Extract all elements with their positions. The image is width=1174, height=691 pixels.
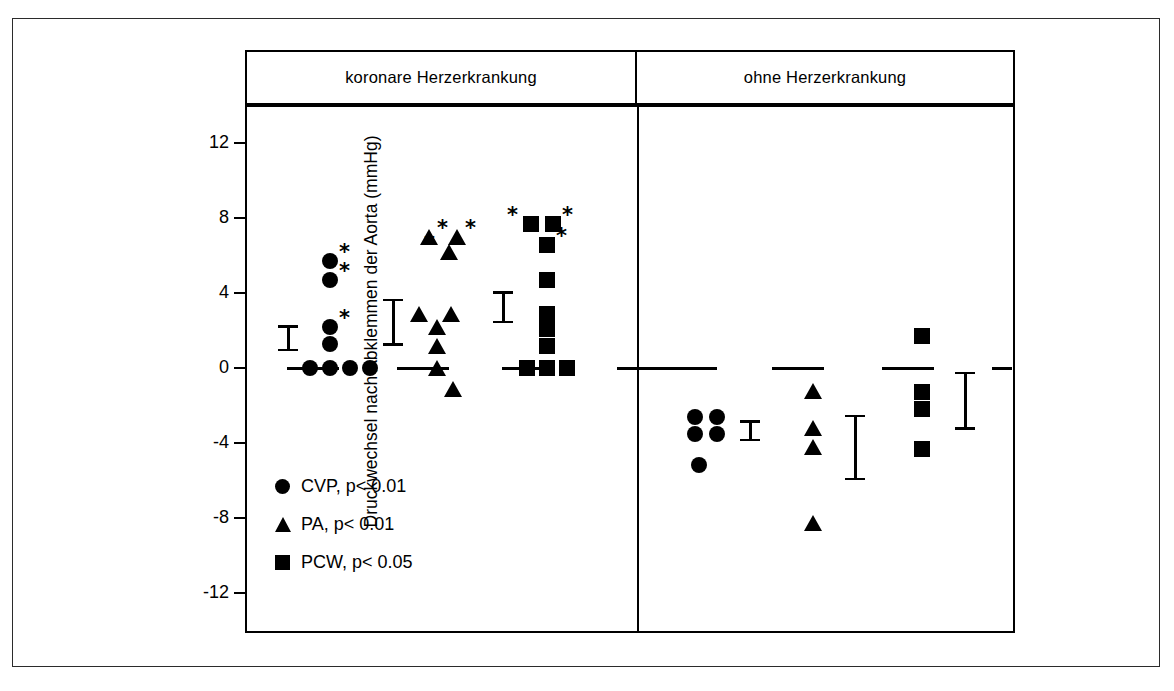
- zero-line-dash: [882, 367, 934, 370]
- zero-line-dash: [772, 367, 824, 370]
- significance-asterisk: *: [339, 247, 350, 257]
- error-bar-pcw: [502, 291, 505, 323]
- data-point-pa: [440, 244, 458, 260]
- error-bar-cvp: [749, 420, 752, 441]
- data-point-pa: [442, 306, 460, 322]
- data-point-pcw: [539, 338, 555, 354]
- data-point-cvp: [322, 319, 338, 335]
- triangle-icon: [275, 517, 301, 532]
- legend-item-cvp: CVP, p< 0.01: [275, 467, 413, 505]
- y-tick-label: 12: [209, 133, 229, 151]
- data-point-pcw: [539, 237, 555, 253]
- data-point-pa: [420, 229, 438, 245]
- data-point-pa: [410, 306, 428, 322]
- chart-legend: CVP, p< 0.01 PA, p< 0.01 PCW, p< 0.05: [275, 467, 413, 581]
- data-point-cvp: [322, 272, 338, 288]
- error-bar-pa: [392, 299, 395, 346]
- data-point-cvp: [322, 253, 338, 269]
- data-point-pa: [804, 439, 822, 455]
- data-point-pcw: [539, 306, 555, 322]
- y-tick-mark: [234, 217, 247, 219]
- data-point-pcw: [914, 384, 930, 400]
- zero-line-dash: [665, 367, 717, 370]
- y-tick-label: 4: [219, 283, 229, 301]
- square-icon: [275, 555, 301, 570]
- significance-asterisk: *: [556, 231, 567, 241]
- significance-asterisk: *: [562, 210, 573, 220]
- significance-asterisk: *: [437, 223, 448, 233]
- plot-area: Druckwechsel nach Abklemmen der Aorta (m…: [245, 105, 1015, 633]
- y-tick-mark: [234, 517, 247, 519]
- data-point-pcw: [539, 272, 555, 288]
- data-point-cvp: [709, 409, 725, 425]
- y-tick-label: 8: [219, 208, 229, 226]
- data-point-pa: [804, 383, 822, 399]
- y-tick-mark: [234, 442, 247, 444]
- data-point-cvp: [322, 360, 338, 376]
- y-tick-label: 0: [219, 358, 229, 376]
- data-point-pcw: [523, 216, 539, 232]
- chart-figure: koronare Herzerkrankung ohne Herzerkrank…: [0, 0, 1174, 691]
- group-header-band: koronare Herzerkrankung ohne Herzerkrank…: [245, 50, 1015, 105]
- data-point-cvp: [302, 360, 318, 376]
- group-header-koronare: koronare Herzerkrankung: [247, 52, 637, 103]
- data-point-pcw: [914, 401, 930, 417]
- significance-asterisk: *: [339, 266, 350, 276]
- data-point-cvp: [342, 360, 358, 376]
- error-bar-cvp: [287, 325, 290, 351]
- legend-item-pcw: PCW, p< 0.05: [275, 543, 413, 581]
- legend-item-pa: PA, p< 0.01: [275, 505, 413, 543]
- data-point-cvp: [362, 360, 378, 376]
- data-point-pa: [804, 420, 822, 436]
- y-tick-label: -12: [203, 583, 229, 601]
- data-point-cvp: [322, 336, 338, 352]
- circle-icon: [275, 479, 301, 494]
- data-point-pa: [444, 381, 462, 397]
- data-point-cvp: [709, 426, 725, 442]
- legend-label-pa: PA, p< 0.01: [301, 514, 394, 535]
- data-point-pa: [804, 515, 822, 531]
- significance-asterisk: *: [465, 223, 476, 233]
- error-bar-pcw: [964, 372, 967, 430]
- significance-asterisk: *: [339, 313, 350, 323]
- data-point-cvp: [687, 426, 703, 442]
- legend-label-cvp: CVP, p< 0.01: [301, 476, 406, 497]
- y-tick-mark: [234, 592, 247, 594]
- significance-asterisk: *: [507, 210, 518, 220]
- data-point-pa: [428, 338, 446, 354]
- data-point-pcw: [519, 360, 535, 376]
- data-point-cvp: [687, 409, 703, 425]
- data-point-pcw: [914, 441, 930, 457]
- y-tick-label: -8: [213, 508, 229, 526]
- y-tick-mark: [234, 367, 247, 369]
- data-point-pa: [428, 360, 446, 376]
- zero-line-dash: [992, 367, 1012, 370]
- data-point-pcw: [545, 216, 561, 232]
- legend-label-pcw: PCW, p< 0.05: [301, 552, 413, 573]
- y-tick-mark: [234, 142, 247, 144]
- data-point-pcw: [914, 328, 930, 344]
- zero-line-dash: [617, 367, 669, 370]
- data-point-pcw: [539, 360, 555, 376]
- data-point-pcw: [539, 321, 555, 337]
- y-tick-label: -4: [213, 433, 229, 451]
- error-bar-pa: [854, 415, 857, 481]
- data-point-pcw: [559, 360, 575, 376]
- y-tick-mark: [234, 292, 247, 294]
- data-point-cvp: [691, 457, 707, 473]
- group-header-ohne: ohne Herzerkrankung: [637, 52, 1013, 103]
- data-point-pa: [448, 229, 466, 245]
